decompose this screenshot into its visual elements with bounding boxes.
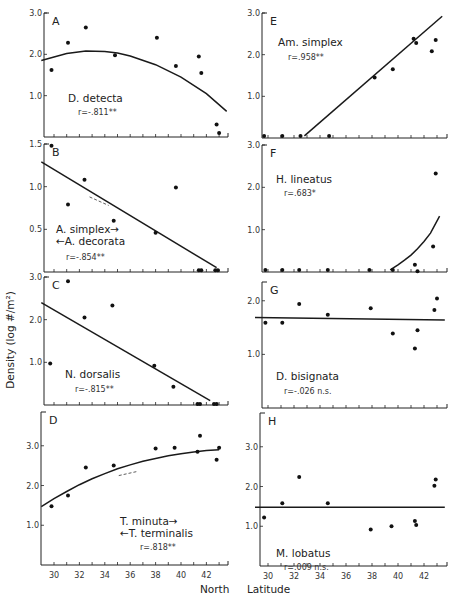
y-tick-label: 2.0 bbox=[26, 482, 39, 491]
data-point bbox=[391, 332, 395, 336]
data-point bbox=[48, 362, 52, 366]
data-point bbox=[66, 203, 70, 207]
data-point bbox=[110, 304, 114, 308]
data-point bbox=[431, 245, 435, 249]
fit-line bbox=[41, 162, 216, 268]
panel-b: 0.51.01.5BA. simplex→←A. decoratar=-.854… bbox=[29, 140, 228, 272]
data-point bbox=[215, 458, 219, 462]
y-tick-label: 2.0 bbox=[29, 50, 42, 59]
data-point bbox=[413, 519, 417, 523]
y-tick-label: 1.0 bbox=[247, 226, 260, 235]
y-tick-label: 1.0 bbox=[26, 521, 39, 530]
data-point bbox=[262, 516, 266, 520]
data-point bbox=[50, 68, 54, 72]
data-point bbox=[217, 131, 221, 135]
fit-line bbox=[41, 450, 219, 507]
data-point bbox=[326, 313, 330, 317]
data-point bbox=[66, 494, 70, 498]
data-point bbox=[297, 475, 301, 479]
y-tick-label: 3.0 bbox=[247, 141, 260, 150]
data-point bbox=[198, 402, 202, 406]
axis-frame bbox=[260, 413, 447, 566]
correlation-label: r=-.815** bbox=[75, 385, 114, 394]
data-point bbox=[83, 178, 87, 182]
data-point bbox=[280, 501, 284, 505]
x-tick-label: 42 bbox=[419, 572, 429, 581]
data-point bbox=[113, 53, 117, 57]
axis-frame bbox=[44, 13, 228, 137]
y-tick-label: 2.0 bbox=[247, 51, 260, 60]
fit-line bbox=[390, 216, 439, 270]
y-tick-label: 1.0 bbox=[29, 183, 42, 192]
panels-group: 1.02.03.0AD. detectar=-.811**0.51.01.5BA… bbox=[26, 9, 447, 581]
data-point bbox=[217, 446, 221, 450]
species-label: T. minuta→ bbox=[119, 515, 178, 527]
data-point bbox=[391, 268, 395, 272]
panel-e: 1.02.03.0EAm. simplexr=.958** bbox=[247, 9, 447, 138]
data-point bbox=[280, 134, 284, 138]
x-tick-label: 38 bbox=[151, 571, 161, 580]
panel-f: 1.02.03.0FH. lineatusr=.683* bbox=[247, 141, 447, 273]
data-point bbox=[280, 268, 284, 272]
data-point bbox=[155, 36, 159, 40]
x-tick-label: 38 bbox=[367, 572, 377, 581]
y-tick-label: 2.0 bbox=[245, 483, 258, 492]
panel-c: 1.02.03.0CN. dorsalisr=-.815** bbox=[29, 273, 228, 406]
y-tick-label: 1.5 bbox=[29, 140, 42, 149]
panel-letter: C bbox=[52, 279, 60, 292]
panel-h: 1.02.03.030323436384042HM. lobatusr=.009… bbox=[245, 413, 447, 581]
correlation-label: r=-.026 n.s. bbox=[284, 387, 332, 396]
data-point bbox=[84, 26, 88, 30]
species-label: ←T. terminalis bbox=[120, 527, 193, 539]
data-point bbox=[434, 477, 438, 481]
data-point bbox=[416, 269, 420, 273]
data-point bbox=[196, 450, 200, 454]
species-label: Am. simplex bbox=[278, 36, 343, 48]
data-point bbox=[197, 54, 201, 58]
y-tick-label: 2.0 bbox=[247, 297, 260, 306]
y-tick-label: 0.5 bbox=[29, 225, 42, 234]
species-label: D. bisignata bbox=[276, 370, 339, 382]
data-point bbox=[414, 41, 418, 45]
x-tick-label: 32 bbox=[289, 572, 299, 581]
panel-letter: G bbox=[270, 284, 279, 297]
data-point bbox=[432, 308, 436, 312]
y-tick-label: 1.0 bbox=[247, 92, 260, 101]
data-point bbox=[432, 484, 436, 488]
panel-letter: A bbox=[52, 15, 60, 28]
panel-g: 1.02.0GD. bisignatar=-.026 n.s. bbox=[247, 282, 447, 408]
data-point bbox=[434, 171, 438, 175]
data-point bbox=[430, 49, 434, 53]
data-point bbox=[299, 134, 303, 138]
data-point bbox=[174, 186, 178, 190]
species-label: M. lobatus bbox=[276, 547, 330, 559]
y-tick-label: 1.0 bbox=[29, 358, 42, 367]
data-point bbox=[154, 231, 158, 235]
correlation-label: r=.818** bbox=[140, 543, 176, 552]
x-tick-label: 36 bbox=[125, 571, 135, 580]
data-point bbox=[171, 385, 175, 389]
axis-frame bbox=[44, 277, 228, 405]
panel-letter: B bbox=[52, 146, 60, 159]
data-point bbox=[416, 328, 420, 332]
y-tick-label: 1.0 bbox=[245, 522, 258, 531]
x-tick-label: 40 bbox=[176, 571, 186, 580]
x-tick-label: 32 bbox=[74, 571, 84, 580]
y-tick-label: 2.0 bbox=[29, 316, 42, 325]
data-point bbox=[50, 504, 54, 508]
x-tick-label: 34 bbox=[100, 571, 110, 580]
x-tick-label: 30 bbox=[49, 571, 59, 580]
data-point bbox=[199, 268, 203, 272]
y-tick-label: 3.0 bbox=[26, 442, 39, 451]
x-tick-label: 42 bbox=[201, 571, 211, 580]
panel-letter: D bbox=[49, 414, 57, 427]
data-point bbox=[215, 402, 219, 406]
y-tick-label: 3.0 bbox=[29, 9, 42, 18]
data-point bbox=[66, 279, 70, 283]
species-label: H. lineatus bbox=[276, 173, 332, 185]
x-axis-title-right: Latitude bbox=[247, 583, 290, 595]
data-point bbox=[434, 38, 438, 42]
x-tick-label: 36 bbox=[341, 572, 351, 581]
y-tick-label: 1.0 bbox=[247, 350, 260, 359]
data-point bbox=[367, 268, 371, 272]
